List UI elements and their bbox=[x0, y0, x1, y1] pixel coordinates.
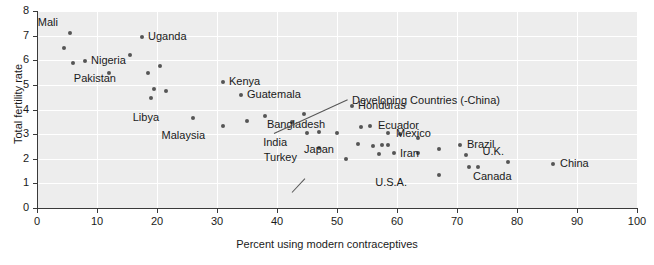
y-axis-title: Total fertility rate bbox=[12, 64, 24, 144]
gridline-horizontal bbox=[37, 85, 637, 86]
annotation-label: Developing Countries (-China) bbox=[352, 95, 500, 106]
y-tick-label: 7 bbox=[9, 30, 29, 41]
y-tick bbox=[33, 85, 37, 86]
x-tick-label: 40 bbox=[262, 216, 292, 227]
y-tick bbox=[33, 134, 37, 135]
x-tick-label: 10 bbox=[82, 216, 112, 227]
data-point bbox=[344, 157, 348, 161]
x-tick-label: 80 bbox=[502, 216, 532, 227]
data-point bbox=[221, 124, 225, 128]
x-tick bbox=[637, 209, 638, 213]
point-label: Uganda bbox=[148, 31, 187, 42]
x-tick-label: 0 bbox=[22, 216, 52, 227]
x-tick-label: 60 bbox=[382, 216, 412, 227]
y-tick-label: 1 bbox=[9, 177, 29, 188]
point-label: Mali bbox=[38, 17, 58, 28]
x-tick-label: 70 bbox=[442, 216, 472, 227]
data-point bbox=[305, 131, 309, 135]
point-label: Libya bbox=[133, 112, 159, 123]
y-tick-label: 8 bbox=[9, 5, 29, 16]
x-tick bbox=[397, 209, 398, 213]
point-label: India bbox=[263, 137, 287, 148]
point-label: Canada bbox=[473, 171, 512, 182]
data-point bbox=[239, 93, 243, 97]
x-axis-title: Percent using modern contraceptives bbox=[0, 238, 654, 250]
data-point bbox=[386, 131, 390, 135]
x-tick-label: 100 bbox=[622, 216, 652, 227]
data-point bbox=[437, 147, 441, 151]
x-tick bbox=[37, 209, 38, 213]
point-label: Malaysia bbox=[162, 130, 205, 141]
y-tick-label: 0 bbox=[9, 202, 29, 213]
point-label: Pakistan bbox=[74, 73, 116, 84]
gridline-horizontal bbox=[37, 110, 637, 111]
data-point bbox=[245, 119, 249, 123]
point-label: Japan bbox=[304, 144, 334, 155]
y-tick bbox=[33, 60, 37, 61]
point-label: Guatemala bbox=[247, 89, 301, 100]
x-tick bbox=[277, 209, 278, 213]
data-point bbox=[377, 152, 381, 156]
data-point bbox=[140, 35, 144, 39]
data-point bbox=[164, 89, 168, 93]
data-point bbox=[551, 162, 555, 166]
x-tick-label: 50 bbox=[322, 216, 352, 227]
data-point bbox=[392, 151, 396, 155]
point-label: U.S.A. bbox=[375, 177, 407, 188]
x-tick-label: 90 bbox=[562, 216, 592, 227]
y-tick bbox=[33, 183, 37, 184]
x-tick bbox=[337, 209, 338, 213]
point-label: Kenya bbox=[229, 76, 260, 87]
gridline-horizontal bbox=[37, 60, 637, 61]
point-label: Iran bbox=[400, 148, 419, 159]
data-point bbox=[152, 87, 156, 91]
data-point bbox=[368, 124, 372, 128]
data-point bbox=[317, 130, 321, 134]
point-label: U.K. bbox=[483, 146, 504, 157]
x-tick bbox=[457, 209, 458, 213]
gridline-horizontal bbox=[37, 183, 637, 184]
point-label: Mexico bbox=[396, 128, 431, 139]
point-label: China bbox=[560, 158, 589, 169]
y-tick-label: 2 bbox=[9, 153, 29, 164]
x-tick-label: 20 bbox=[142, 216, 172, 227]
data-point bbox=[146, 71, 150, 75]
y-axis-line bbox=[37, 11, 38, 209]
point-label: Nigeria bbox=[91, 55, 126, 66]
data-point bbox=[62, 46, 66, 50]
x-tick bbox=[517, 209, 518, 213]
y-tick bbox=[33, 11, 37, 12]
x-tick bbox=[577, 209, 578, 213]
gridline-vertical bbox=[637, 11, 638, 208]
data-point bbox=[71, 61, 75, 65]
y-tick bbox=[33, 159, 37, 160]
data-point bbox=[335, 131, 339, 135]
gridline-horizontal bbox=[37, 11, 637, 12]
data-point bbox=[359, 125, 363, 129]
y-tick bbox=[33, 110, 37, 111]
x-tick bbox=[217, 209, 218, 213]
data-point bbox=[437, 173, 441, 177]
point-label: Bangladesh bbox=[267, 119, 325, 130]
point-label: Turkey bbox=[264, 152, 297, 163]
data-point bbox=[356, 142, 360, 146]
y-tick bbox=[33, 36, 37, 37]
gridline-horizontal bbox=[37, 36, 637, 37]
x-tick bbox=[97, 209, 98, 213]
scatter-chart: 0123456780102030405060708090100 MaliNige… bbox=[0, 0, 654, 265]
gridline-horizontal bbox=[37, 159, 637, 160]
x-tick bbox=[157, 209, 158, 213]
x-tick-label: 30 bbox=[202, 216, 232, 227]
